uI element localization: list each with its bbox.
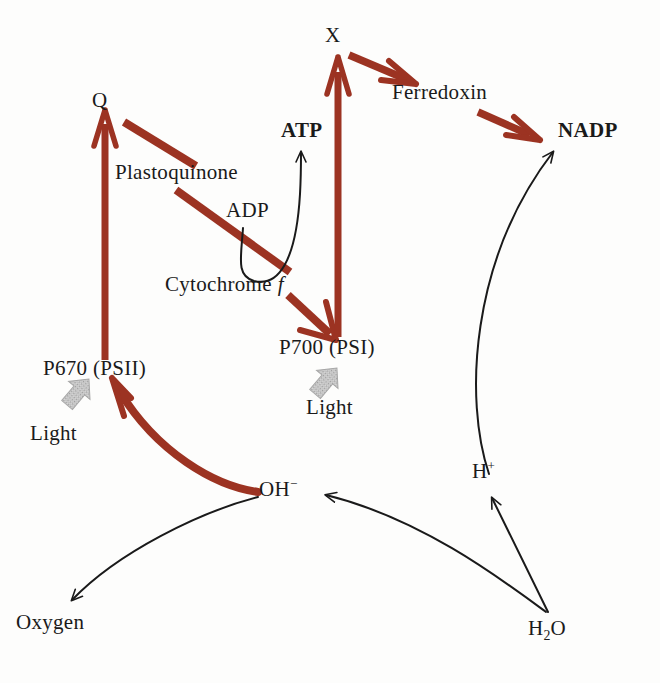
light-label-psii: Light xyxy=(30,423,77,444)
cytochrome-f-italic: f xyxy=(278,272,284,296)
node-label-water: H2O xyxy=(528,618,566,643)
arrow-oh-to-oxygen xyxy=(72,497,258,600)
arrow-p700-to-x xyxy=(327,57,349,337)
node-label-ferredoxin: Ferredoxin xyxy=(392,82,487,103)
arrow-h2o-to-oh xyxy=(326,495,546,612)
hydroxide-charge: − xyxy=(290,476,297,491)
node-label-atp: ATP xyxy=(281,120,322,141)
proton-charge: + xyxy=(487,458,494,473)
node-label-hydroxide: OH− xyxy=(259,477,297,500)
light-label-psi: Light xyxy=(306,397,353,418)
arrow-hplus-to-nadp xyxy=(476,152,553,474)
arrow-cytochrome-to-p700 xyxy=(288,295,336,340)
node-label-q: Q xyxy=(92,90,107,111)
node-label-x: X xyxy=(325,25,340,46)
water-h: H xyxy=(528,616,543,640)
hydroxide-base: OH xyxy=(259,477,290,501)
arrow-oh-to-p670 xyxy=(112,378,258,492)
node-label-nadp: NADP xyxy=(558,120,618,141)
photosynthesis-z-scheme-diagram: X Q Ferredoxin ATP NADP Plastoquinone AD… xyxy=(0,0,660,683)
node-label-p700: P700 (PSI) xyxy=(279,337,375,358)
node-label-p670: P670 (PSII) xyxy=(43,358,146,379)
proton-base: H xyxy=(472,459,487,483)
arrow-ferredoxin-to-nadp xyxy=(478,112,540,140)
node-label-cytochrome-f: Cytochromef xyxy=(165,274,284,295)
node-label-plastoquinone: Plastoquinone xyxy=(115,162,238,183)
arrow-h2o-to-hplus xyxy=(492,498,548,612)
node-label-proton: H+ xyxy=(472,459,495,482)
node-label-adp: ADP xyxy=(226,200,269,221)
water-o: O xyxy=(550,616,565,640)
cytochrome-word: Cytochrome xyxy=(165,272,272,296)
arrow-p670-to-q xyxy=(94,110,116,360)
node-label-oxygen: Oxygen xyxy=(16,612,84,633)
